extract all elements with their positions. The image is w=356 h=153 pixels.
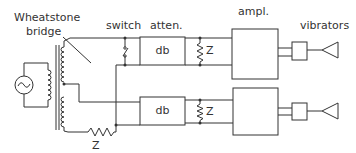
resistor-z-top-icon: [197, 38, 203, 65]
center-tap-wire: [64, 84, 140, 102]
top-rail: [64, 38, 140, 47]
secondary-coil-lower-icon: [61, 97, 64, 127]
z-series-label: Z: [92, 140, 100, 151]
secondary-coil-upper-icon: [61, 47, 64, 82]
atten-top-label: db: [140, 45, 185, 56]
switch-return-wire: [116, 65, 140, 125]
ampl-box-bottom: [233, 88, 278, 135]
wheatstone-label: Wheatstone: [14, 12, 80, 23]
primary-wiring: [24, 63, 48, 107]
z-bottom-label: Z: [206, 106, 214, 117]
vibrator-bottom-icon: [278, 103, 338, 120]
switch-label: switch: [106, 20, 141, 31]
atten-label: atten.: [150, 20, 183, 31]
ampl-box-top: [232, 29, 278, 79]
series-resistor-icon: [88, 128, 114, 136]
ampl-label: ampl.: [238, 6, 269, 17]
bridge-pointer: [63, 37, 91, 63]
atten-bottom-label: db: [140, 105, 185, 116]
lower-wire: [64, 127, 88, 132]
switch-icon: [123, 38, 128, 65]
ac-source-icon: [15, 76, 33, 94]
transformer-core-icon: [56, 45, 59, 130]
vibrator-top-icon: [278, 42, 338, 60]
vibrators-label: vibrators: [300, 20, 349, 31]
bridge-label: bridge: [26, 26, 61, 37]
z-top-label: Z: [206, 45, 214, 56]
primary-coil-icon: [48, 70, 51, 100]
resistor-z-bottom-icon: [197, 100, 203, 123]
